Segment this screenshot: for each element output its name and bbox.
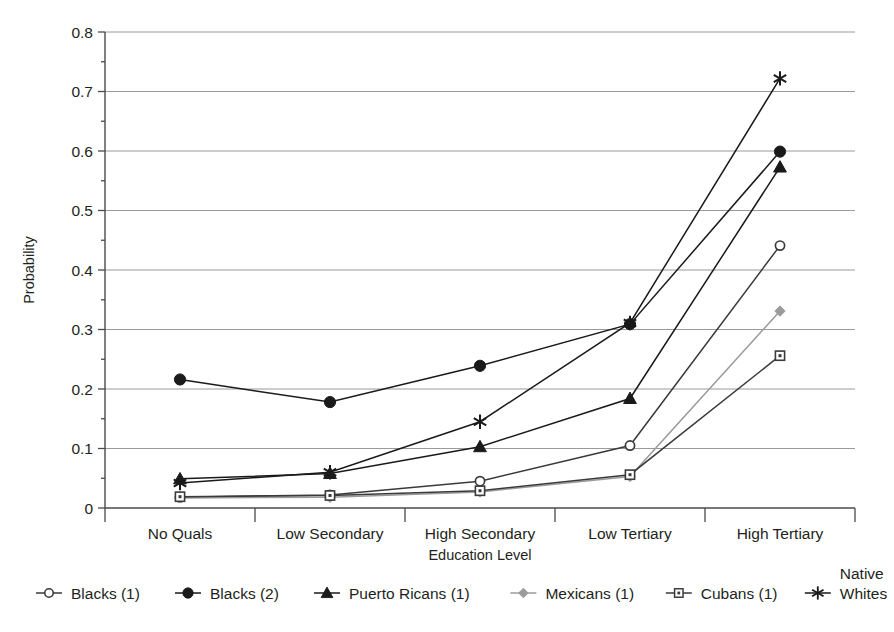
marker-asterisk	[474, 415, 486, 429]
marker-filled-triangle	[624, 392, 637, 403]
marker-diamond	[519, 588, 529, 598]
legend-group: Blacks (1)Blacks (2)Puerto Ricans (1)Mex…	[36, 565, 887, 602]
marker-filled-circle	[174, 374, 185, 385]
legend-item-blacks-1[interactable]: Blacks (1)	[36, 585, 140, 602]
legend-label-line1: Native	[840, 565, 884, 582]
y-axis-group: 00.10.20.30.40.50.60.70.8	[71, 24, 105, 517]
marker-filled-circle	[183, 588, 193, 598]
series-line	[180, 311, 780, 498]
marker-open-square-center	[179, 495, 182, 498]
x-axis-labels-group: No QualsLow SecondaryHigh SecondaryLow T…	[148, 525, 824, 542]
marker-open-square-center	[479, 489, 482, 492]
y-tick-label: 0.2	[71, 381, 93, 398]
legend-label: Blacks (1)	[71, 585, 140, 602]
marker-open-circle	[625, 441, 634, 450]
y-tick-label: 0.4	[71, 262, 93, 279]
x-axis-title: Education Level	[428, 547, 531, 563]
marker-asterisk	[774, 71, 786, 85]
series-puerto-ricans-1	[174, 161, 787, 484]
marker-open-square-center	[779, 354, 782, 357]
x-category-label-high-tertiary: High Tertiary	[737, 525, 824, 542]
marker-open-circle	[475, 477, 484, 486]
chart-container: 00.10.20.30.40.50.60.70.8No QualsLow Sec…	[0, 0, 894, 632]
x-category-label-no-quals: No Quals	[148, 525, 213, 542]
x-category-label-low-tertiary: Low Tertiary	[588, 525, 672, 542]
legend-item-blacks-2[interactable]: Blacks (2)	[175, 585, 279, 602]
y-tick-label: 0.7	[71, 83, 93, 100]
y-tick-label: 0.3	[71, 321, 93, 338]
x-category-label-high-secondary: High Secondary	[425, 525, 536, 542]
series-blacks-2	[174, 146, 785, 408]
series-mexicans-1	[175, 306, 785, 503]
y-tick-label: 0	[84, 500, 93, 517]
series-line	[180, 167, 780, 479]
marker-filled-triangle	[774, 161, 787, 172]
marker-open-square-center	[677, 592, 680, 595]
y-tick-label: 0.5	[71, 202, 93, 219]
legend-label: Blacks (2)	[210, 585, 279, 602]
legend-item-native-whites[interactable]: NativeWhites	[805, 565, 888, 602]
y-tick-label: 0.1	[71, 440, 93, 457]
legend-item-cubans-1[interactable]: Cubans (1)	[666, 585, 778, 602]
marker-filled-circle	[324, 396, 335, 407]
marker-filled-circle	[774, 146, 785, 157]
probability-by-education-line-chart: 00.10.20.30.40.50.60.70.8No QualsLow Sec…	[0, 0, 894, 632]
y-tick-label: 0.6	[71, 143, 93, 160]
legend-label: Cubans (1)	[701, 585, 778, 602]
y-tick-label: 0.8	[71, 24, 93, 41]
marker-open-circle	[775, 241, 784, 250]
legend-label: Mexicans (1)	[545, 585, 634, 602]
legend-label: Puerto Ricans (1)	[349, 585, 470, 602]
marker-open-square-center	[629, 473, 632, 476]
marker-filled-circle	[474, 360, 485, 371]
series-group	[174, 71, 787, 503]
marker-open-square-center	[329, 494, 332, 497]
x-category-label-low-secondary: Low Secondary	[277, 525, 384, 542]
series-native-whites	[174, 71, 786, 490]
legend-item-mexicans-1[interactable]: Mexicans (1)	[510, 585, 634, 602]
x-axis-ticks-group	[105, 508, 855, 522]
marker-open-circle	[45, 589, 53, 597]
legend-label-line2: Whites	[840, 585, 888, 602]
y-axis-title: Probability	[21, 235, 37, 303]
legend-item-puerto-ricans-1[interactable]: Puerto Ricans (1)	[314, 585, 470, 602]
